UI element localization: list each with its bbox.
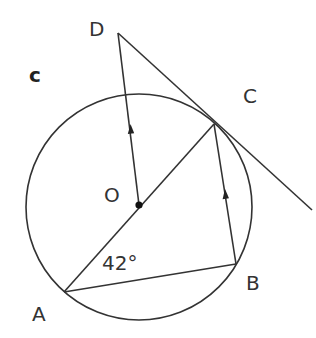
- label-a: A: [32, 302, 46, 326]
- segment-ab: [64, 264, 236, 292]
- parallel-arrow-icon-bc: [223, 189, 229, 199]
- segment-od: [118, 33, 139, 205]
- label-d: D: [89, 17, 104, 41]
- label-o: O: [104, 183, 120, 207]
- label-c: C: [243, 84, 257, 108]
- angle-label: 42°: [102, 251, 137, 275]
- center-point-o: [135, 201, 142, 208]
- geometry-diagram: c D C O 42° A B: [0, 0, 316, 338]
- label-b: B: [246, 271, 260, 295]
- part-label: c: [29, 63, 41, 87]
- tangent-line-dc: [118, 33, 312, 210]
